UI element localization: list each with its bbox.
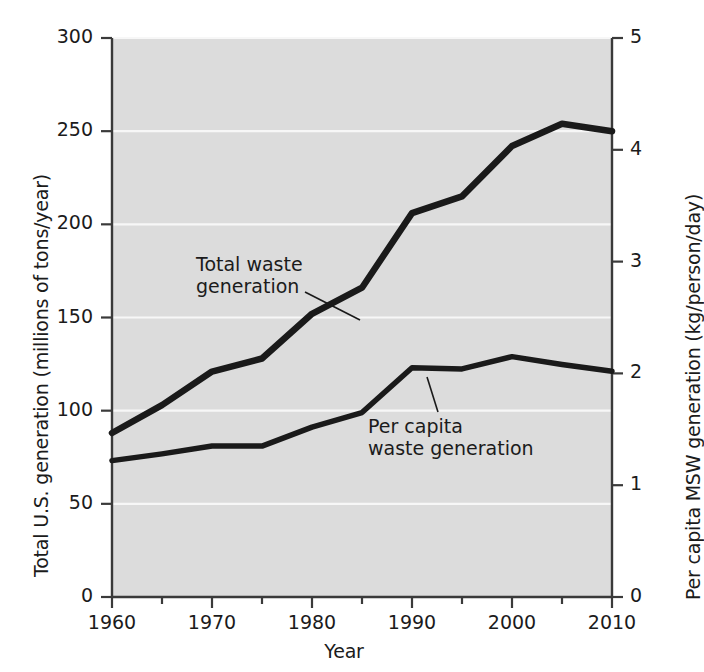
right-axis-title: Per capita MSW generation (kg/person/day… [682, 40, 704, 600]
x-axis-tick-label: 2010 [572, 611, 652, 633]
right-axis-tick-label: 2 [630, 360, 690, 382]
x-axis-tick-label: 1970 [172, 611, 252, 633]
right-axis-tick-label: 0 [630, 584, 690, 606]
annotation-total-waste-line1: Total waste [196, 253, 326, 275]
left-axis-tick-label: 0 [33, 584, 93, 606]
x-axis-tick-label: 1980 [272, 611, 352, 633]
annotation-per-capita-line2: waste generation [368, 437, 568, 459]
right-axis-tick-label: 5 [630, 25, 690, 47]
x-axis-tick-label: 1990 [372, 611, 452, 633]
right-axis-tick-label: 4 [630, 137, 690, 159]
annotation-total-waste-line2: generation [196, 275, 326, 297]
x-axis-title: Year [0, 640, 688, 662]
right-axis-tick-label: 3 [630, 249, 690, 271]
x-axis-tick-label: 2000 [472, 611, 552, 633]
annotation-per-capita-line1: Per capita [368, 415, 568, 437]
x-axis-tick-label: 1960 [72, 611, 152, 633]
annotation-total-waste-generation: Total waste generation [196, 253, 326, 297]
left-axis-title: Total U.S. generation (millions of tons/… [30, 17, 52, 577]
right-axis-tick-label: 1 [630, 472, 690, 494]
annotation-per-capita-waste-generation: Per capita waste generation [368, 415, 568, 459]
